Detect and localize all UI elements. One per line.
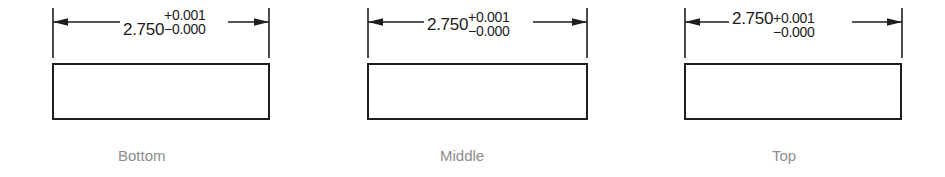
tolerance-alignment-figure: 2.750 +0.001 −0.000 Bottom 2.750 +0.001 … <box>0 0 945 177</box>
dimension-group-middle: 2.750 +0.001 −0.000 Middle <box>315 0 635 177</box>
tolerance-lower: −0.000 <box>468 24 509 38</box>
arrowhead-right-icon <box>254 18 269 26</box>
arrowhead-left-icon <box>685 18 700 26</box>
nominal-value: 2.750 <box>123 21 164 38</box>
dimension-text-middle: 2.750 +0.001 −0.000 <box>424 10 512 39</box>
part-outline-rectangle <box>367 63 588 120</box>
dimension-group-bottom: 2.750 +0.001 −0.000 Bottom <box>0 0 320 177</box>
tolerance-upper: +0.001 <box>468 10 509 24</box>
arrowhead-right-icon <box>572 18 587 26</box>
caption-top: Top <box>772 147 796 164</box>
tolerance-lower: −0.000 <box>773 25 814 39</box>
caption-bottom: Bottom <box>118 147 166 164</box>
dimension-text-top: 2.750 +0.001 −0.000 <box>729 11 817 40</box>
tolerance-stack: +0.001 −0.000 <box>468 10 509 39</box>
nominal-value: 2.750 <box>427 16 468 33</box>
caption-middle: Middle <box>440 147 484 164</box>
tolerance-upper: +0.001 <box>773 11 814 25</box>
tolerance-lower: −0.000 <box>164 22 205 36</box>
part-outline-rectangle <box>52 63 270 120</box>
arrowhead-right-icon <box>887 18 902 26</box>
tolerance-upper: +0.001 <box>164 8 205 22</box>
dimension-text-bottom: 2.750 +0.001 −0.000 <box>120 8 208 37</box>
arrowhead-left-icon <box>368 18 383 26</box>
dimension-group-top: 2.750 +0.001 −0.000 Top <box>632 0 945 177</box>
part-outline-rectangle <box>684 63 902 120</box>
tolerance-stack: +0.001 −0.000 <box>773 11 814 40</box>
tolerance-stack: +0.001 −0.000 <box>164 8 205 37</box>
arrowhead-left-icon <box>53 18 68 26</box>
nominal-value: 2.750 <box>732 10 773 27</box>
